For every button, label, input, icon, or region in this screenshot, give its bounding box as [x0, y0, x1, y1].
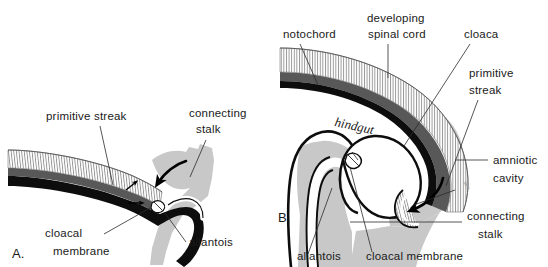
panel-marker-a: A. [12, 246, 24, 261]
label-primitive-streak-b-line2: streak [469, 84, 502, 96]
label-connecting-stalk-b-line2: stalk [478, 228, 503, 240]
label-developing-b: developing [367, 12, 425, 24]
label-spinal-cord-b: spinal cord [368, 28, 426, 40]
label-cloacal-membrane-a-line1: cloacal [45, 227, 82, 239]
panel-a-drawing [8, 126, 214, 267]
label-amniotic-b: amniotic [493, 154, 537, 166]
label-allantois-b: allantois [297, 250, 341, 262]
label-notochord-b: notochord [283, 28, 336, 40]
panel-marker-b: B. [278, 210, 290, 225]
cloacal-membrane-spot [151, 201, 165, 213]
label-allantois-a: allantois [189, 236, 233, 248]
figure-canvas: primitive streak connecting stalk cloaca… [0, 0, 548, 267]
panel-b-drawing [280, 44, 488, 267]
label-primitive-streak-b-line1: primitive [469, 67, 514, 79]
label-cloaca-b: cloaca [464, 28, 499, 40]
label-cloacal-membrane-b: cloacal membrane [366, 250, 463, 262]
embryology-figure: primitive streak connecting stalk cloaca… [0, 0, 548, 267]
label-primitive-streak-a: primitive streak [46, 110, 127, 122]
label-connecting-stalk-a-line1: connecting [189, 107, 247, 119]
label-connecting-stalk-a-line2: stalk [196, 123, 221, 135]
label-connecting-stalk-b-line1: connecting [467, 210, 525, 222]
label-cloacal-membrane-a-line2: membrane [53, 245, 110, 257]
label-amniotic-cavity-b: cavity [493, 172, 524, 184]
leader-cloacal-membrane-a [104, 208, 150, 234]
